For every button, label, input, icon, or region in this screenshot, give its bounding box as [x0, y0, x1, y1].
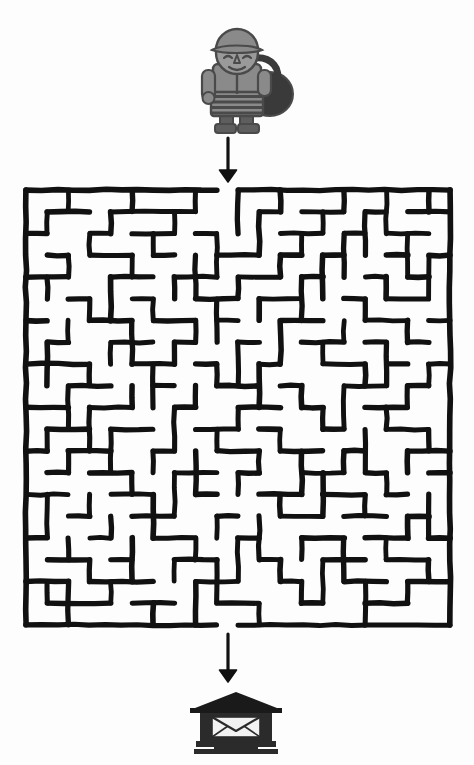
- maze-wall: [111, 211, 196, 212]
- maze-wall: [344, 298, 365, 299]
- maze-wall: [429, 255, 450, 256]
- maze-wall: [89, 560, 90, 582]
- maze-wall: [280, 581, 301, 582]
- maze-wall: [195, 255, 196, 298]
- mailbox-roof-edge: [190, 708, 282, 713]
- right-arm: [258, 70, 271, 96]
- maze-wall: [132, 321, 133, 365]
- maze-wall: [344, 234, 345, 278]
- maze-wall: [238, 473, 259, 474]
- maze-wall: [89, 299, 90, 321]
- maze-wall: [323, 364, 365, 365]
- maze-wall: [386, 407, 387, 429]
- maze-wall: [429, 364, 430, 386]
- maze-wall: [26, 451, 48, 452]
- maze-wall: [237, 538, 238, 581]
- maze-wall: [89, 234, 90, 256]
- maze-wall: [153, 299, 154, 321]
- maze-wall: [47, 342, 48, 385]
- maze-wall: [238, 473, 239, 495]
- maze-wall: [90, 581, 154, 582]
- mailbox-post: [214, 747, 258, 749]
- maze-wall: [407, 342, 429, 343]
- maze-wall: [365, 581, 366, 625]
- maze-wall: [259, 516, 260, 560]
- maze-wall: [280, 429, 281, 451]
- maze-wall: [153, 495, 154, 539]
- maze-wall: [174, 407, 175, 451]
- maze-wall: [280, 190, 281, 212]
- maze-wall: [238, 277, 239, 298]
- maze-wall: [111, 429, 153, 430]
- left-hand: [203, 92, 215, 104]
- mailbox-base-top: [196, 741, 276, 747]
- maze-grid: [25, 189, 450, 625]
- maze-wall: [322, 560, 323, 604]
- maze-wall: [407, 234, 408, 278]
- maze-wall: [153, 451, 154, 473]
- maze-wall: [343, 386, 344, 429]
- maze-wall: [365, 603, 408, 604]
- maze-wall: [132, 538, 133, 582]
- maze-wall: [132, 190, 133, 212]
- maze-wall: [449, 190, 450, 625]
- maze-wall: [365, 320, 408, 321]
- maze-wall: [174, 472, 175, 516]
- maze-wall: [259, 603, 260, 624]
- maze-wall: [111, 212, 112, 234]
- maze-wall: [365, 495, 366, 516]
- maze-wall: [365, 212, 366, 256]
- right-boot: [238, 124, 259, 133]
- maze-wall: [343, 538, 344, 581]
- maze-wall: [69, 516, 90, 517]
- maze-wall: [259, 364, 260, 408]
- maze-wall: [68, 255, 69, 277]
- maze-wall: [365, 342, 386, 343]
- maze-wall: [47, 277, 48, 299]
- maze-wall: [238, 625, 450, 626]
- maze-wall: [216, 233, 217, 276]
- maze-wall: [343, 451, 344, 473]
- maze-wall: [343, 321, 344, 342]
- maze-wall: [428, 560, 429, 582]
- maze-wall: [154, 320, 196, 321]
- maze-wall: [386, 473, 387, 495]
- maze-wall: [89, 407, 132, 408]
- maze-wall: [344, 450, 365, 451]
- maze-wall: [26, 363, 89, 364]
- maze-wall: [238, 342, 260, 343]
- maze-wall: [175, 342, 196, 343]
- maze-wall: [26, 189, 217, 190]
- maze-wall: [365, 473, 386, 474]
- maze-wall: [68, 581, 69, 625]
- maze-wall: [217, 451, 259, 452]
- maze-wall: [386, 190, 387, 233]
- mailbox-base-bottom: [194, 749, 278, 754]
- maze-wall: [47, 255, 68, 256]
- maze-wall: [323, 494, 365, 495]
- maze-wall: [216, 299, 217, 342]
- maze-wall: [90, 537, 111, 538]
- maze-wall: [386, 559, 429, 560]
- maze-wall: [68, 320, 69, 342]
- maze-puzzle-scene: [0, 0, 474, 765]
- maze-wall: [344, 190, 345, 211]
- maze-wall: [217, 603, 259, 604]
- maze-wall: [153, 537, 195, 538]
- maze-wall: [302, 538, 345, 539]
- maze-wall: [47, 342, 68, 343]
- maze-wall: [280, 560, 281, 582]
- maze-wall: [153, 255, 174, 256]
- maze-wall: [47, 494, 48, 537]
- maze-wall: [26, 624, 217, 625]
- maze-wall: [429, 363, 450, 364]
- maze-wall: [408, 277, 429, 278]
- maze-wall: [386, 494, 407, 495]
- maze-wall: [111, 516, 112, 538]
- maze-wall: [110, 429, 111, 472]
- maze-wall: [365, 212, 386, 213]
- maze-wall: [301, 386, 302, 408]
- maze-wall: [302, 407, 323, 408]
- maze-wall: [110, 342, 111, 364]
- maze-wall: [47, 212, 48, 234]
